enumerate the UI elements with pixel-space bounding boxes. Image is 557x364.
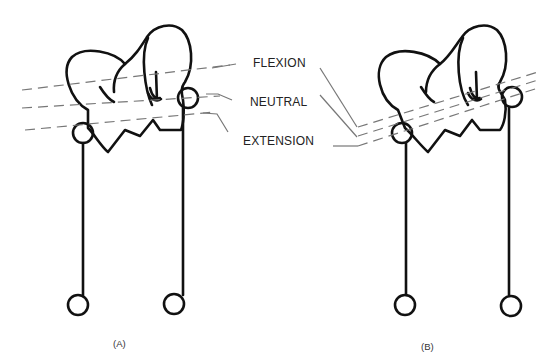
- pelvis-b: [379, 26, 522, 316]
- pelvis-a: [67, 26, 198, 315]
- caption-a: (A): [113, 338, 126, 349]
- leader-lines-b: [320, 68, 358, 146]
- axis-lines-a: [22, 65, 230, 130]
- label-flexion: FLEXION: [253, 56, 306, 70]
- diagram-canvas: [0, 0, 557, 364]
- label-extension: EXTENSION: [243, 134, 314, 148]
- label-neutral: NEUTRAL: [250, 95, 307, 109]
- leader-lines-a: [203, 64, 236, 132]
- caption-b: (B): [421, 341, 434, 352]
- axis-lines-b: [358, 72, 538, 146]
